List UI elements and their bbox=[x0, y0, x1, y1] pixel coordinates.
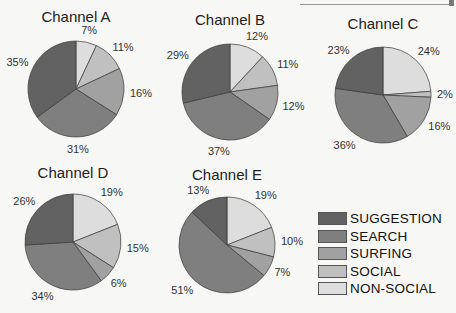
pie-title: Channel A bbox=[41, 8, 110, 25]
pie-channel-c: Channel C24%2%16%36%23% bbox=[328, 15, 454, 151]
pie-channel-d: Channel D19%15%6%34%26% bbox=[13, 164, 149, 302]
slice-label: 7% bbox=[81, 24, 97, 36]
pie-title: Channel B bbox=[195, 11, 265, 28]
legend-label: SEARCH bbox=[350, 229, 407, 244]
pie-channel-e: Channel E19%10%7%51%13% bbox=[171, 166, 303, 296]
slice-label: 35% bbox=[6, 56, 28, 68]
slice-label: 24% bbox=[418, 45, 440, 57]
pie-title: Channel C bbox=[348, 15, 419, 32]
legend-item-non-social: NON-SOCIAL bbox=[318, 280, 442, 298]
slice-label: 29% bbox=[167, 49, 189, 61]
legend-label: SURFING bbox=[350, 246, 412, 261]
slice-label: 12% bbox=[246, 30, 268, 42]
pie-title: Channel E bbox=[192, 166, 262, 183]
slice-label: 11% bbox=[277, 58, 298, 70]
pie-channel-a: Channel A7%11%16%31%35% bbox=[6, 8, 152, 155]
legend-swatch bbox=[318, 265, 347, 278]
legend-item-surfing: SURFING bbox=[318, 245, 442, 263]
legend-item-suggestion: SUGGESTION bbox=[318, 210, 442, 228]
slice-label: 2% bbox=[437, 88, 453, 100]
slice-label: 13% bbox=[187, 184, 209, 196]
legend-label: NON-SOCIAL bbox=[350, 281, 436, 296]
slice-label: 26% bbox=[13, 195, 35, 207]
slice-label: 11% bbox=[112, 41, 133, 53]
legend-item-search: SEARCH bbox=[318, 228, 442, 246]
slice-label: 16% bbox=[428, 120, 450, 132]
legend-label: SUGGESTION bbox=[350, 211, 442, 226]
slice-label: 23% bbox=[328, 44, 350, 56]
legend-swatch bbox=[318, 230, 347, 243]
legend: SUGGESTION SEARCH SURFING SOCIAL NON-SOC… bbox=[318, 210, 442, 298]
slice-label: 6% bbox=[111, 277, 127, 289]
slice-label: 19% bbox=[255, 189, 277, 201]
slice-label: 16% bbox=[130, 87, 152, 99]
slice-label: 10% bbox=[281, 235, 303, 247]
legend-label: SOCIAL bbox=[350, 264, 401, 279]
slice-label: 12% bbox=[282, 100, 304, 112]
pie-channel-b: Channel B12%11%12%37%29% bbox=[167, 11, 305, 157]
legend-item-social: SOCIAL bbox=[318, 263, 442, 281]
slice-label: 34% bbox=[31, 290, 53, 302]
legend-swatch bbox=[318, 282, 347, 295]
slice-label: 51% bbox=[171, 284, 193, 296]
pie-title: Channel D bbox=[38, 164, 109, 181]
legend-swatch bbox=[318, 247, 347, 260]
slice-label: 36% bbox=[334, 139, 356, 151]
slice-label: 31% bbox=[67, 143, 89, 155]
slice-label: 15% bbox=[127, 242, 149, 254]
legend-swatch bbox=[318, 212, 347, 225]
slice-label: 19% bbox=[101, 186, 123, 198]
slice-label: 7% bbox=[275, 266, 291, 278]
slice-label: 37% bbox=[208, 145, 230, 157]
